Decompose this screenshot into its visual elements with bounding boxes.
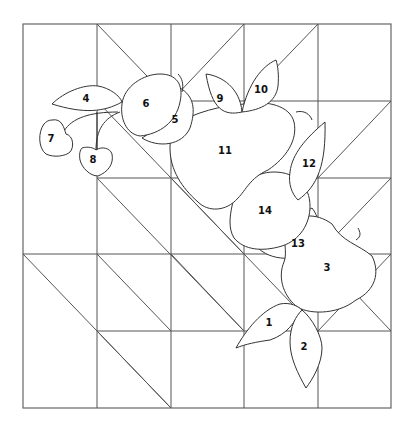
label-6: 6: [143, 98, 150, 109]
applique-pieces: [40, 60, 376, 388]
piece-7: [40, 120, 73, 156]
label-3: 3: [324, 262, 331, 273]
label-7: 7: [48, 133, 55, 144]
label-1: 1: [266, 317, 273, 328]
label-10: 10: [254, 84, 268, 95]
label-14: 14: [258, 205, 272, 216]
applique-pattern-diagram: 1 2 3 4 5 6 7 8 9 10 11 12 13 14: [0, 0, 409, 429]
label-5: 5: [172, 114, 179, 125]
label-2: 2: [301, 341, 308, 352]
label-12: 12: [302, 158, 316, 169]
label-4: 4: [83, 93, 90, 104]
label-11: 11: [218, 145, 232, 156]
label-9: 9: [217, 93, 224, 104]
piece-9: [206, 74, 242, 113]
label-13: 13: [291, 238, 305, 249]
label-8: 8: [90, 154, 97, 165]
